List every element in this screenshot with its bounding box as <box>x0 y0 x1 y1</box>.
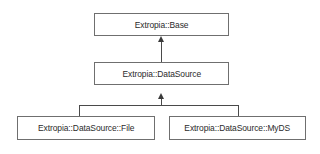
edge-datasource-to-base-line <box>161 42 162 62</box>
class-box-base[interactable]: Extropia::Base <box>94 13 229 36</box>
edge-branch-horizontal-bus <box>79 105 239 106</box>
class-box-datasource-myds-label: Extropia::DataSource::MyDS <box>185 123 291 133</box>
edge-datasource-to-base-arrowhead-icon <box>158 36 164 42</box>
edge-subclasses-to-datasource-arrowhead-icon <box>158 93 164 99</box>
uml-class-diagram: Extropia::Base Extropia::DataSource Extr… <box>0 0 320 154</box>
edge-branch-drop-myds <box>238 105 239 116</box>
class-box-base-label: Extropia::Base <box>135 20 189 30</box>
edge-branch-drop-file <box>79 105 80 116</box>
class-box-datasource-myds[interactable]: Extropia::DataSource::MyDS <box>169 116 306 140</box>
class-box-datasource-file[interactable]: Extropia::DataSource::File <box>17 116 155 140</box>
class-box-datasource-label: Extropia::DataSource <box>122 69 201 79</box>
class-box-datasource-file-label: Extropia::DataSource::File <box>38 123 134 133</box>
class-box-datasource[interactable]: Extropia::DataSource <box>94 62 229 85</box>
